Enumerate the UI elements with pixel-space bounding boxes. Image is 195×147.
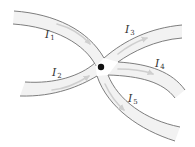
label-i4: I4 (155, 58, 165, 71)
label-i1-subscript: 1 (50, 34, 54, 42)
label-i2-symbol: I (52, 66, 56, 79)
label-i4-symbol: I (155, 57, 159, 70)
label-i5: I5 (128, 93, 138, 106)
label-i1-symbol: I (45, 28, 49, 41)
wire-i1 (13, 11, 104, 66)
label-i2: I2 (52, 67, 62, 80)
wire-i4 (108, 62, 185, 98)
label-i2-subscript: 2 (57, 72, 61, 80)
junction-node (98, 64, 104, 70)
label-i5-subscript: 5 (133, 98, 137, 106)
label-i4-subscript: 4 (160, 63, 164, 71)
label-i3: I3 (125, 24, 135, 37)
label-i3-symbol: I (125, 23, 129, 36)
label-i3-subscript: 3 (130, 29, 134, 37)
label-i1: I1 (45, 29, 55, 42)
wire-i3 (104, 25, 182, 62)
label-i5-symbol: I (128, 92, 132, 105)
junction-diagram (0, 0, 195, 147)
